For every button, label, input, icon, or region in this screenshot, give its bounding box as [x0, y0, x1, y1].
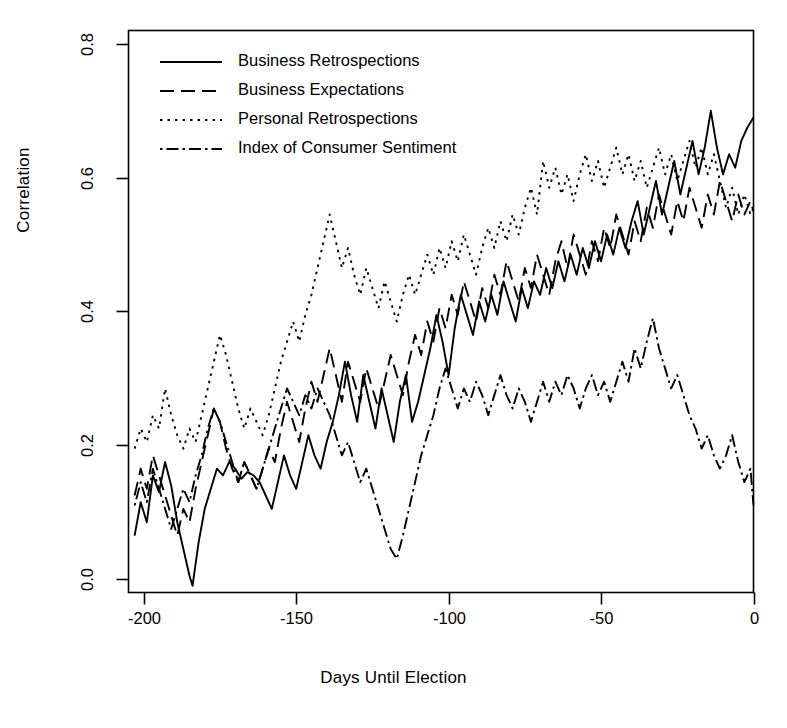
x-tick-label: -100	[410, 609, 490, 628]
y-tick-label: 0.6	[77, 148, 96, 208]
x-axis-ticks	[145, 593, 755, 605]
legend-sample-lines	[160, 62, 222, 149]
y-tick-label: 0.4	[77, 281, 96, 341]
y-tick-label: 0.8	[77, 14, 96, 74]
series-line	[135, 111, 754, 586]
x-tick-label: 0	[715, 609, 787, 628]
y-axis-ticks	[117, 45, 129, 580]
legend-entry-label: Index of Consumer Sentiment	[238, 138, 456, 157]
legend-entry-label: Business Expectations	[238, 80, 404, 99]
x-tick-label: -50	[562, 609, 642, 628]
x-tick-label: -200	[105, 609, 185, 628]
x-axis-title: Days Until Election	[0, 668, 787, 688]
x-tick-label: -150	[257, 609, 337, 628]
series-line	[135, 141, 754, 449]
y-axis-title: Correlation	[14, 100, 34, 280]
plot-frame	[129, 31, 754, 593]
series-line	[135, 181, 754, 536]
chart-figure: Correlation Days Until Election -200-150…	[0, 0, 787, 728]
legend-entry-label: Business Retrospections	[238, 51, 420, 70]
y-tick-label: 0.0	[77, 549, 96, 609]
legend-entry-label: Personal Retrospections	[238, 109, 418, 128]
data-series-group	[135, 111, 754, 586]
y-tick-label: 0.2	[77, 415, 96, 475]
